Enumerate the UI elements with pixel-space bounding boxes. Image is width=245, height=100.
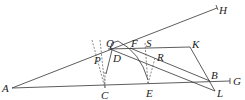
label-G: G <box>233 75 241 87</box>
label-E: E <box>145 87 153 99</box>
label-Q: Q <box>106 37 114 49</box>
label-R: R <box>156 51 164 63</box>
label-P: P <box>93 54 101 66</box>
diagram-canvas: A H Q F S K P D R B G C E L <box>0 0 245 100</box>
label-K: K <box>191 38 200 50</box>
label-A: A <box>1 82 9 94</box>
line-DC <box>106 50 112 74</box>
label-C: C <box>101 89 109 100</box>
geometry-diagram: A H Q F S K P D R B G C E L <box>0 0 245 100</box>
label-H: H <box>218 4 228 16</box>
tick-H <box>216 5 218 10</box>
label-B: B <box>211 69 218 81</box>
dashed-P2 <box>100 40 105 88</box>
line-AG <box>12 81 230 88</box>
dashed-S2 <box>148 58 155 84</box>
label-S: S <box>146 37 152 49</box>
label-F: F <box>130 37 138 49</box>
label-L: L <box>216 87 223 99</box>
line-AH <box>12 8 217 88</box>
label-D: D <box>112 52 121 64</box>
